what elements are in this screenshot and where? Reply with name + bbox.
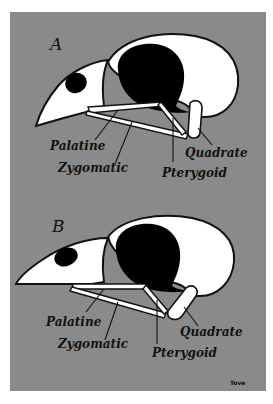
label-quadrate-a: Quadrate xyxy=(185,146,248,160)
palatine-bone-b xyxy=(72,284,148,289)
label-quadrate-b: Quadrate xyxy=(180,325,243,339)
leader-quadrate-b xyxy=(184,307,198,326)
label-palatine-a: Palatine xyxy=(49,139,106,153)
skull-b: B Palatine Zygomatic Pterygoid Quadrate xyxy=(16,216,243,360)
leader-zygomatic-a xyxy=(115,122,132,164)
quadrate-bone-a xyxy=(188,101,202,138)
panel-letter-a: A xyxy=(48,34,62,54)
label-pterygoid-a: Pterygoid xyxy=(161,166,227,180)
label-palatine-b: Palatine xyxy=(45,315,102,329)
artist-signature: Tove xyxy=(230,379,245,386)
label-zygomatic-b: Zygomatic xyxy=(57,337,129,351)
leader-quadrate-a xyxy=(198,128,212,145)
label-pterygoid-b: Pterygoid xyxy=(151,346,217,360)
skull-a: A Palatine Zygomatic Pterygoid Quadrate xyxy=(36,34,248,180)
skull-diagram: A Palatine Zygomatic Pterygoid Quadrate … xyxy=(0,0,273,404)
leader-zygomatic-b xyxy=(105,302,118,340)
label-zygomatic-a: Zygomatic xyxy=(57,161,129,175)
panel-letter-b: B xyxy=(51,216,65,236)
